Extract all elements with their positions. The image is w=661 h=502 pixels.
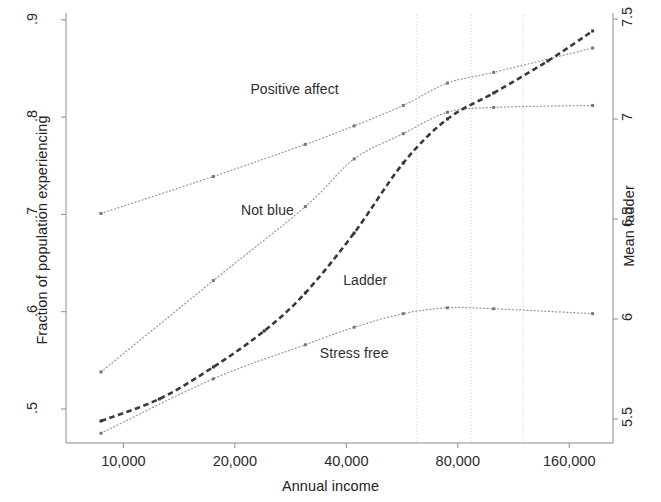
series-label-stress-free: Stress free [320,345,389,361]
data-point [99,370,102,373]
data-point [446,82,449,85]
data-point [591,104,594,107]
y-tick-label-left: .9 [24,0,40,39]
y-tick-label-right: 6.5 [619,195,635,239]
data-point [353,124,356,127]
data-point [446,111,449,114]
data-point [591,47,594,50]
data-point [158,398,161,401]
y-tick-label-right: 7.5 [619,0,635,39]
data-point [304,143,307,146]
data-point [99,212,102,215]
data-point [492,307,495,310]
x-axis-label: Annual income [0,478,661,494]
data-point [492,71,495,74]
data-point [402,312,405,315]
data-point [99,432,102,435]
y-tick-label-right: 6 [619,295,635,339]
chart-figure: Fraction of population experiencing Mean… [0,0,661,502]
x-tick-label: 20,000 [190,453,280,469]
x-tick-label: 160,000 [524,453,614,469]
data-point [212,366,215,369]
data-point [446,306,449,309]
series-line-not-blue [101,105,593,372]
x-tick-label: 40,000 [301,453,391,469]
data-point [263,330,266,333]
data-point [304,292,307,295]
y-tick-label-left: .5 [24,388,40,428]
x-tick-label: 10,000 [78,453,168,469]
y-tick-label-right: 5.5 [619,395,635,439]
chart-canvas [0,0,661,502]
data-point [99,420,102,423]
x-tick-label: 80,000 [413,453,503,469]
series-label-positive-affect: Positive affect [250,81,338,97]
y-tick-label-left: .6 [24,291,40,331]
data-point [446,118,449,121]
data-point [591,30,594,33]
data-point [212,279,215,282]
data-point [546,60,549,63]
data-point [353,157,356,160]
data-point [353,232,356,235]
data-point [402,132,405,135]
y-tick-label-left: .8 [24,96,40,136]
data-point [304,343,307,346]
data-point [402,104,405,107]
data-point [353,326,356,329]
data-point [591,312,594,315]
data-point [212,175,215,178]
y-tick-label-right: 7 [619,95,635,139]
series-line-stress-free [101,307,593,433]
data-point [492,106,495,109]
series-line-ladder [101,31,593,421]
series-line-positive-affect [101,48,593,213]
series-label-ladder: Ladder [343,272,387,288]
data-point [212,377,215,380]
data-point [304,205,307,208]
data-point [492,92,495,95]
y-tick-label-left: .7 [24,193,40,233]
series-label-not-blue: Not blue [241,202,294,218]
data-point [402,162,405,165]
